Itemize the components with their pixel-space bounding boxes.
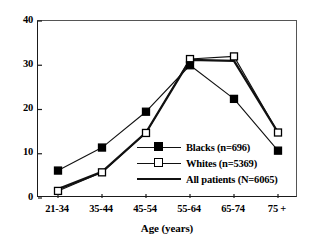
y-axis-tick-label: 10	[11, 147, 33, 157]
legend-key-blacks	[137, 140, 181, 154]
legend-item-all-patients: All patients (N=6065)	[137, 171, 297, 187]
data-point-whites	[231, 53, 238, 60]
x-axis-tick-labels: 21-3435-4445-5455-6465-7475 +	[37, 203, 297, 219]
legend-key-all-patients	[137, 172, 181, 186]
x-axis-tick-label: 75 +	[247, 203, 307, 214]
data-point-whites	[55, 187, 62, 194]
data-point-whites	[99, 169, 106, 176]
y-axis-tick-label: 40	[11, 15, 33, 25]
open-square-icon	[154, 158, 163, 167]
data-point-blacks	[99, 144, 106, 151]
legend-item-blacks: Blacks (n=696)	[137, 139, 297, 155]
data-point-blacks	[143, 108, 150, 115]
y-axis-tick-label: 30	[11, 59, 33, 69]
chart-figure: 010203040 21-3435-4445-5455-6465-7475 + …	[0, 0, 318, 247]
filled-square-icon	[154, 142, 163, 151]
legend-label-whites: Whites (n=5369)	[181, 158, 257, 169]
legend-line-icon	[137, 178, 181, 180]
data-point-blacks	[187, 62, 194, 69]
legend: Blacks (n=696) Whites (n=5369) All patie…	[137, 139, 297, 187]
data-point-whites	[143, 129, 150, 136]
data-point-blacks	[55, 167, 62, 174]
legend-label-all-patients: All patients (N=6065)	[181, 174, 278, 185]
data-point-blacks	[231, 95, 238, 102]
x-axis-title: Age (years)	[37, 222, 297, 234]
y-axis-tick-label: 0	[11, 192, 33, 202]
legend-label-blacks: Blacks (n=696)	[181, 142, 250, 153]
legend-item-whites: Whites (n=5369)	[137, 155, 297, 171]
data-point-whites	[275, 129, 282, 136]
y-axis-tick-label: 20	[11, 103, 33, 113]
legend-key-whites	[137, 156, 181, 170]
